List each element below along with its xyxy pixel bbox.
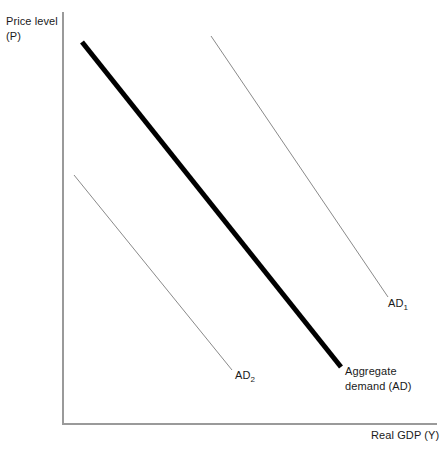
curve-label-ad1-subscript: 1 xyxy=(403,303,408,312)
y-axis-label: Price level (P) xyxy=(6,14,58,44)
x-axis-label: Real GDP (Y) xyxy=(371,428,439,443)
curve-label-ad-line2: demand (AD) xyxy=(345,379,412,394)
curve-label-ad1-text: AD xyxy=(388,297,403,309)
curve-label-ad2-text: AD xyxy=(235,369,250,381)
curve-label-ad2-subscript: 2 xyxy=(250,375,255,384)
aggregate-demand-chart: Price level (P) Real GDP (Y) AD1 AD2 Agg… xyxy=(0,0,445,453)
curve-aggregate-demand xyxy=(82,42,341,367)
curve-label-ad2: AD2 xyxy=(235,368,255,383)
curve-label-aggregate-demand: Aggregatedemand (AD) xyxy=(345,364,412,394)
curve-ad1 xyxy=(211,36,388,297)
curve-label-ad-line1: Aggregate xyxy=(345,364,412,379)
curve-label-ad1: AD1 xyxy=(388,296,408,311)
